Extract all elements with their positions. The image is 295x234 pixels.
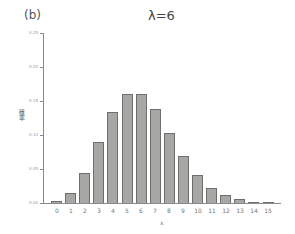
bar-x-4 <box>107 112 118 203</box>
bar-x-1 <box>65 193 76 203</box>
y-tick <box>40 135 43 136</box>
bar-x-13 <box>234 199 245 203</box>
x-axis-label: x <box>160 219 164 226</box>
bar-x-8 <box>164 133 175 203</box>
bar-x-3 <box>93 142 104 203</box>
bar-x-6 <box>136 94 147 203</box>
bar-x-5 <box>122 94 133 203</box>
bar-x-14 <box>248 202 259 203</box>
y-tick-label: 0.10 <box>16 133 38 137</box>
x-tick-label: 12 <box>219 207 233 214</box>
x-tick-label: 10 <box>191 207 205 214</box>
y-tick <box>40 169 43 170</box>
x-tick-label: 1 <box>64 207 78 214</box>
x-tick-label: 13 <box>233 207 247 214</box>
x-tick-label: 4 <box>106 207 120 214</box>
bar-x-7 <box>150 109 161 203</box>
x-tick-label: 0 <box>50 207 64 214</box>
y-tick <box>40 203 43 204</box>
y-tick <box>40 67 43 68</box>
y-tick-label: 0.25 <box>16 31 38 35</box>
y-axis-label: 確率 <box>18 109 25 121</box>
x-tick-label: 14 <box>247 207 261 214</box>
x-tick-label: 8 <box>162 207 176 214</box>
x-tick-label: 6 <box>134 207 148 214</box>
bar-x-9 <box>178 156 189 203</box>
x-tick-label: 11 <box>205 207 219 214</box>
x-tick-label: 15 <box>261 207 275 214</box>
bar-x-12 <box>220 195 231 203</box>
bar-x-11 <box>206 188 217 203</box>
y-tick-label: 0.15 <box>16 99 38 103</box>
bar-x-10 <box>192 175 203 203</box>
y-tick <box>40 33 43 34</box>
x-tick-label: 5 <box>120 207 134 214</box>
y-axis-line <box>43 33 44 204</box>
x-tick-label: 3 <box>92 207 106 214</box>
bar-x-15 <box>263 202 274 203</box>
x-tick-label: 2 <box>78 207 92 214</box>
x-tick-label: 7 <box>148 207 162 214</box>
panel-label: (b) <box>24 8 41 22</box>
y-tick <box>40 101 43 102</box>
y-tick-label: 0.05 <box>16 167 38 171</box>
chart-title: λ=6 <box>148 8 175 23</box>
y-tick-label: 0.20 <box>16 65 38 69</box>
x-tick-label: 9 <box>176 207 190 214</box>
y-tick-label: 0.00 <box>16 201 38 205</box>
bar-x-0 <box>51 201 62 203</box>
x-axis-baseline <box>43 203 281 204</box>
bar-x-2 <box>79 173 90 203</box>
